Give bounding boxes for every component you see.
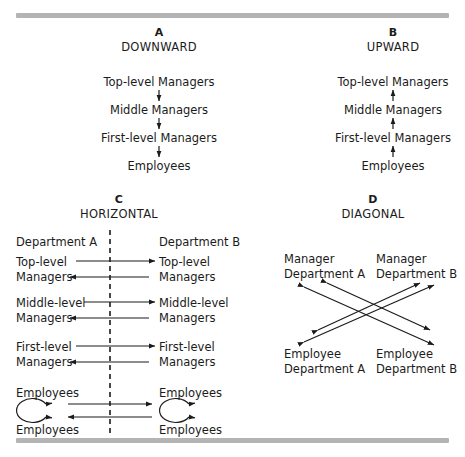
panel-a-node-3: Employees — [128, 160, 191, 173]
panel-b-node-1: Middle Managers — [344, 104, 442, 117]
panel-c-row-2-left-line2: Managers — [16, 356, 72, 369]
panel-b-node-3: Employees — [362, 160, 425, 173]
panel-d-node-3-line1: Employee — [376, 348, 433, 361]
panel-d-node-0-line1: Manager — [284, 253, 334, 266]
panel-b-node-2: First-level Managers — [335, 132, 451, 145]
panel-c-row-0-right-line1: Top-level — [159, 256, 210, 269]
panel-d-node-3-line2: Department B — [376, 363, 457, 376]
panel-c-row-1-right-line2: Managers — [159, 312, 215, 325]
panel-a-node-0: Top-level Managers — [104, 76, 215, 89]
panel-d-letter: D — [353, 193, 393, 206]
panel-c-employees-left-bottom: Employees — [16, 424, 79, 437]
panel-d-node-2-line1: Employee — [284, 348, 341, 361]
panel-d-arrow-empA-mgrB-2 — [318, 283, 420, 330]
panel-c-row-0-left-line1: Top-level — [16, 256, 67, 269]
panel-c-row-2-right-line1: First-level — [159, 341, 215, 354]
panel-c-right-loop — [160, 399, 195, 423]
panel-c-employees-left-top: Employees — [16, 387, 79, 400]
panel-d-title: DIAGONAL — [273, 207, 465, 221]
panel-c-row-2-right-line2: Managers — [159, 356, 215, 369]
panel-c-row-1-left-line2: Managers — [16, 312, 72, 325]
panel-c-header-left: Department A — [16, 236, 97, 249]
panel-d-arrow-empA-mgrB — [304, 285, 434, 342]
panel-c-row-0-left-line2: Managers — [16, 271, 72, 284]
panel-b-node-0: Top-level Managers — [338, 76, 449, 89]
panel-a-node-1: Middle Managers — [110, 104, 208, 117]
panel-a-node-2: First-level Managers — [101, 132, 217, 145]
panel-c-employees-right-top: Employees — [159, 387, 222, 400]
panel-c-row-0-right-line2: Managers — [159, 271, 215, 284]
panel-d-node-0-line2: Department A — [284, 268, 365, 281]
panel-b-letter: B — [373, 26, 413, 39]
panel-c-left-loop — [17, 399, 52, 423]
panel-c-row-1-right-line1: Middle-level — [159, 297, 228, 310]
top-rule — [16, 13, 449, 18]
panel-c-row-1-left-line1: Middle-level — [16, 297, 85, 310]
panel-d-arrow-mgrA-empB — [304, 287, 434, 345]
panel-c-title: HORIZONTAL — [19, 207, 219, 221]
panel-c-header-right: Department B — [159, 236, 240, 249]
bottom-rule — [16, 438, 449, 443]
panel-b-title: UPWARD — [293, 40, 465, 54]
panel-c-letter: C — [99, 193, 139, 206]
panel-d-arrow-mgrA-empB-2 — [327, 283, 430, 330]
panel-d-node-1-line1: Manager — [376, 253, 426, 266]
panel-c-employees-right-bottom: Employees — [159, 424, 222, 437]
panel-a-letter: A — [139, 26, 179, 39]
panel-a-title: DOWNWARD — [59, 40, 259, 54]
panel-c-row-2-left-line1: First-level — [16, 341, 72, 354]
panel-d-node-1-line2: Department B — [376, 268, 457, 281]
panel-d-node-2-line2: Department A — [284, 363, 365, 376]
